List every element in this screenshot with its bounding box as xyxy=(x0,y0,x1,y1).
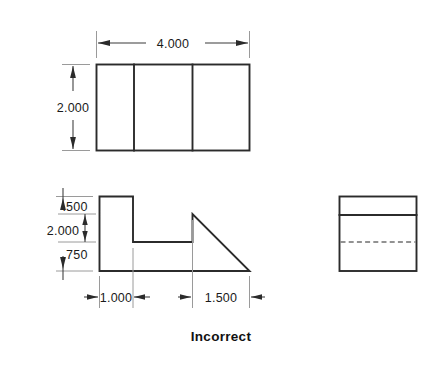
front-view-profile xyxy=(100,197,250,272)
arrowhead-slope-right-icon xyxy=(251,294,262,299)
arrowhead-up-icon xyxy=(70,66,76,78)
side-view-outline xyxy=(340,197,417,272)
arrowhead-left-icon xyxy=(98,40,110,46)
dimension-front-slope-run: 1.500 xyxy=(178,291,265,305)
dimension-label-front-step-height: .500 xyxy=(62,200,87,214)
arrowhead-inner-up-icon xyxy=(82,231,87,241)
arrowhead-right-icon xyxy=(236,40,248,46)
arrowhead-down-icon xyxy=(70,137,76,149)
arrowhead-inner-down-icon xyxy=(82,215,87,225)
caption-label: Incorrect xyxy=(191,329,252,344)
dimension-label-front-overall-height: 2.000 xyxy=(47,224,79,238)
dimension-top-depth: 2.000 xyxy=(57,65,90,151)
top-view-outline xyxy=(97,65,250,151)
dimension-front-step-height: .500 xyxy=(58,200,96,214)
side-view xyxy=(340,197,417,272)
arrowhead-slope-left-icon xyxy=(180,294,191,299)
dimension-front-step-width: 1.000 xyxy=(84,291,150,305)
dimension-front-base-height: .750 xyxy=(58,242,96,262)
dimension-label-top-width: 4.000 xyxy=(157,37,189,51)
dimension-label-front-base-height: .750 xyxy=(62,248,87,262)
dimension-front-inner-height xyxy=(82,214,87,242)
dimension-top-width: 4.000 xyxy=(97,31,250,58)
dimension-label-front-step-width: 1.000 xyxy=(100,291,132,305)
arrowhead-inward-left-icon xyxy=(87,294,98,299)
arrowhead-inward-right-icon xyxy=(134,294,145,299)
top-view xyxy=(97,65,250,151)
front-view xyxy=(100,197,250,272)
dimension-label-top-depth: 2.000 xyxy=(57,101,89,115)
engineering-drawing-sheet: 4.000 2.000 2.000 xyxy=(0,0,435,365)
dimension-label-front-slope-run: 1.500 xyxy=(205,291,237,305)
